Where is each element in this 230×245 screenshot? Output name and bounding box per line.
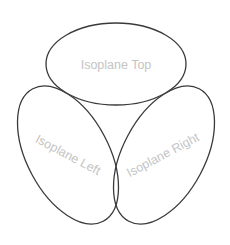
isoplane-left-label: Isoplane Left xyxy=(33,132,103,178)
isoplane-top-label: Isoplane Top xyxy=(81,58,152,72)
isoplane-right-label: Isoplane Right xyxy=(124,130,202,180)
isoplane-top-shape: Isoplane Top xyxy=(46,23,186,105)
isoplane-diagram: Isoplane Left Isoplane Right Isoplane To… xyxy=(0,0,230,245)
